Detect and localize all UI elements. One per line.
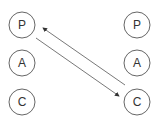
node-label: A: [124, 50, 150, 76]
node-label: C: [9, 89, 35, 115]
node-label: P: [124, 12, 150, 38]
arrow-p-to-c: [36, 38, 119, 96]
arrow-c-to-p: [43, 28, 125, 85]
node-label: P: [9, 12, 35, 38]
node-label: C: [124, 89, 150, 115]
node-label: A: [9, 50, 35, 76]
